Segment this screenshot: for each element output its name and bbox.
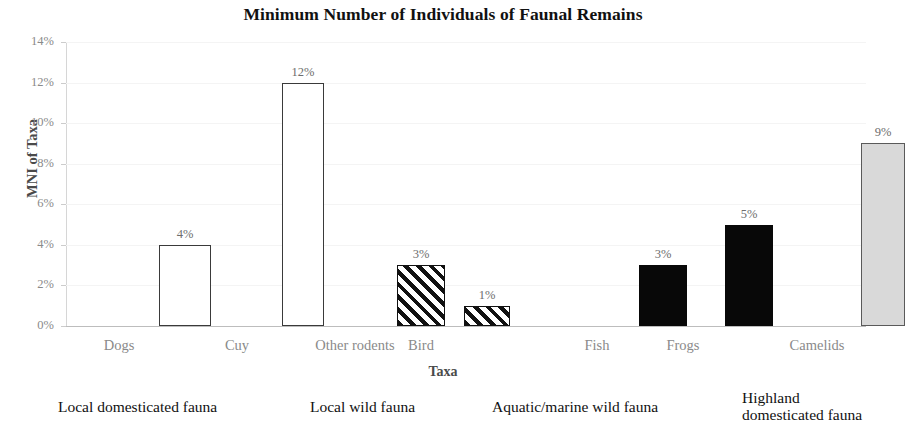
bar[interactable] xyxy=(464,306,510,326)
y-tick-mark xyxy=(61,204,66,205)
bar[interactable] xyxy=(861,143,905,326)
y-tick-mark xyxy=(61,245,66,246)
bar[interactable] xyxy=(282,83,324,326)
bar[interactable] xyxy=(159,245,211,326)
bar[interactable] xyxy=(639,265,687,326)
group-caption: Highland domesticated fauna xyxy=(742,389,892,423)
bar-value-label: 1% xyxy=(440,288,534,303)
group-caption: Local wild fauna xyxy=(310,398,510,415)
y-tick-mark xyxy=(61,83,66,84)
y-tick-label: 12% xyxy=(8,75,54,90)
x-tick-label: Bird xyxy=(341,337,501,354)
bar-group[interactable]: 12% xyxy=(282,42,324,326)
x-axis-title: Taxa xyxy=(0,364,886,380)
y-tick-label: 14% xyxy=(8,34,54,49)
plot-area: 4%12%3%1%3%5%9% xyxy=(66,42,866,326)
y-tick-label: 2% xyxy=(8,277,54,292)
bar-value-label: 4% xyxy=(135,227,235,242)
group-caption: Aquatic/marine wild fauna xyxy=(492,398,732,415)
bar-value-label: 5% xyxy=(701,207,797,222)
y-tick-mark xyxy=(61,123,66,124)
bar-group[interactable]: 5% xyxy=(725,42,773,326)
y-tick-label: 0% xyxy=(8,318,54,333)
y-tick-mark xyxy=(61,326,66,327)
group-caption: Local domesticated fauna xyxy=(58,398,308,415)
y-tick-label: 4% xyxy=(8,237,54,252)
bar-group[interactable]: 4% xyxy=(159,42,211,326)
bar-group[interactable]: 9% xyxy=(861,42,905,326)
bar-group[interactable]: 1% xyxy=(464,42,510,326)
y-tick-label: 8% xyxy=(8,156,54,171)
y-tick-mark xyxy=(61,42,66,43)
bar[interactable] xyxy=(725,225,773,326)
bar-group[interactable]: 3% xyxy=(639,42,687,326)
bar-value-label: 3% xyxy=(373,247,469,262)
y-tick-mark xyxy=(61,164,66,165)
bar-value-label: 9% xyxy=(837,125,909,140)
chart-title: Minimum Number of Individuals of Faunal … xyxy=(0,4,886,25)
bar[interactable] xyxy=(397,265,445,326)
x-tick-label: Camelids xyxy=(737,337,897,354)
x-axis-line xyxy=(66,326,866,327)
bar-value-label: 12% xyxy=(258,65,348,80)
y-tick-label: 6% xyxy=(8,196,54,211)
y-tick-label: 10% xyxy=(8,115,54,130)
bar-group[interactable]: 3% xyxy=(397,42,445,326)
bar-value-label: 3% xyxy=(615,247,711,262)
y-tick-mark xyxy=(61,285,66,286)
